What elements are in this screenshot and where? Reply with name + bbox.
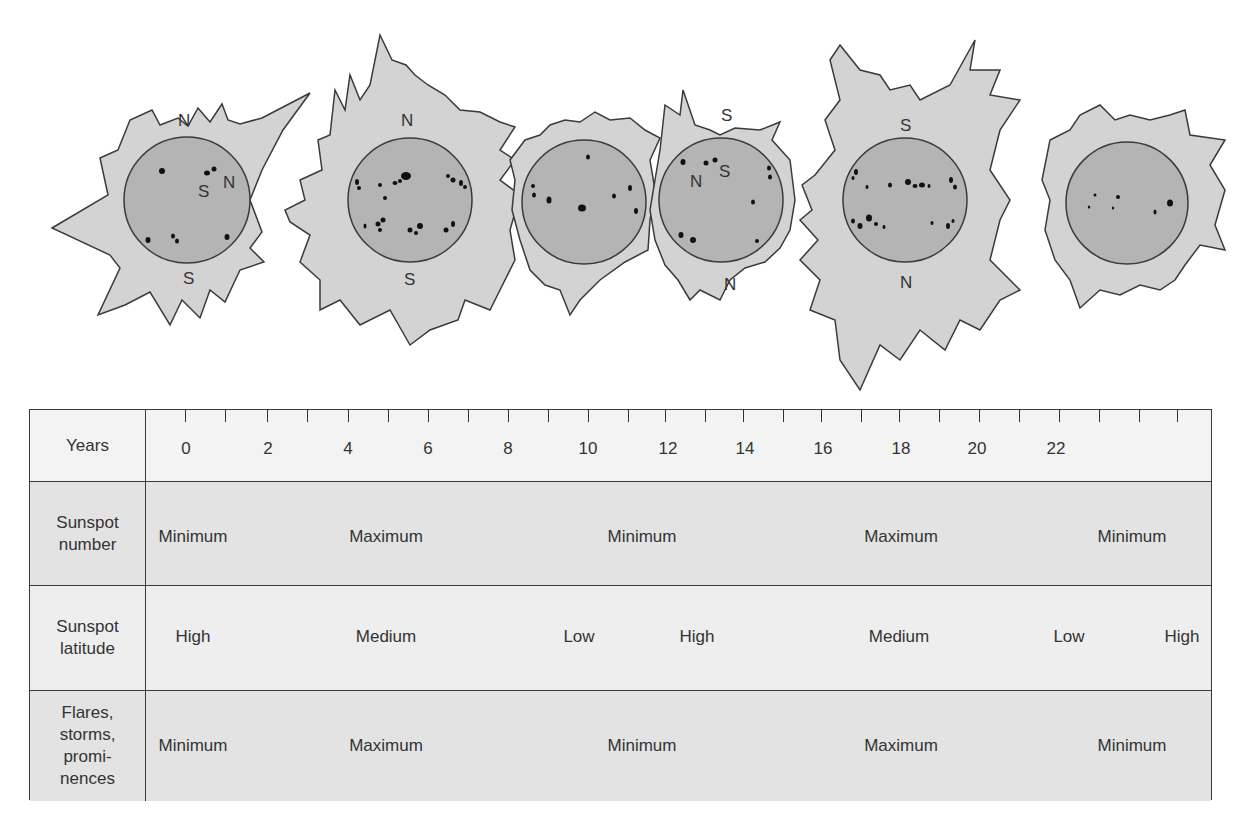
sun-4: S N S N (650, 90, 795, 300)
tick (939, 410, 940, 422)
value-cell: Minimum (608, 736, 677, 756)
tick (899, 410, 900, 422)
year-label: 10 (579, 439, 598, 459)
year-label: 0 (181, 439, 190, 459)
tick (1139, 410, 1140, 422)
solar-cycle-illustration: N S N S N S (0, 0, 1247, 400)
pole-label: N (724, 275, 736, 294)
label-line: storms, (60, 724, 116, 746)
pole-label: N (223, 173, 235, 192)
pole-label: N (178, 111, 190, 130)
tick (1099, 410, 1100, 422)
row-label-sunspot-number: Sunspot number (30, 482, 146, 585)
disk-1 (124, 137, 250, 263)
tick (743, 410, 744, 422)
tick (588, 410, 589, 422)
value-cell: Minimum (1098, 527, 1167, 547)
tick (628, 410, 629, 422)
value-cell: Minimum (159, 736, 228, 756)
tick (348, 410, 349, 422)
pole-label: S (719, 162, 730, 181)
tick (1019, 410, 1020, 422)
tick (979, 410, 980, 422)
year-label: 6 (423, 439, 432, 459)
value-cell: High (176, 627, 211, 647)
tick (665, 410, 666, 422)
value-cell: High (680, 627, 715, 647)
label-line: number (56, 534, 118, 556)
value-cell: High (1165, 627, 1200, 647)
tick (185, 410, 186, 422)
year-label: 16 (814, 439, 833, 459)
disk-2 (348, 138, 472, 262)
tick (225, 410, 226, 422)
pole-label: S (183, 269, 194, 288)
value-cell: Medium (356, 627, 416, 647)
value-cell: Low (1053, 627, 1084, 647)
value-cell: Minimum (159, 527, 228, 547)
sun-6 (1042, 105, 1225, 308)
label-line: Flares, (60, 702, 116, 724)
tick (307, 410, 308, 422)
tick (388, 410, 389, 422)
tick (508, 410, 509, 422)
year-label: 4 (343, 439, 352, 459)
disk-5 (843, 138, 967, 262)
sun-1: N S N S (52, 93, 310, 325)
label-line: promi- (60, 746, 116, 768)
sun-2: N S (285, 35, 520, 345)
value-cell: Low (563, 627, 594, 647)
label-line: latitude (56, 638, 118, 660)
tick (783, 410, 784, 422)
disk-4 (659, 138, 783, 262)
tick (468, 410, 469, 422)
year-label: 8 (503, 439, 512, 459)
pole-label: S (198, 182, 209, 201)
year-label: 2 (263, 439, 272, 459)
sun-5: S N (800, 40, 1020, 390)
sunspot-number-row: Sunspot number Minimum Maximum Minimum M… (30, 482, 1211, 586)
row-label-flares-storms-prominences: Flares, storms, promi- nences (30, 691, 146, 801)
value-cell: Maximum (864, 736, 938, 756)
years-label: Years (30, 410, 146, 481)
value-cell: Maximum (349, 527, 423, 547)
value-cell: Minimum (1098, 736, 1167, 756)
label-line: Sunspot (56, 616, 118, 638)
tick (1177, 410, 1178, 422)
year-axis: 0 2 4 6 8 10 12 14 16 18 20 22 (145, 410, 1211, 481)
row-label-sunspot-latitude: Sunspot latitude (30, 586, 146, 690)
pole-label: N (401, 111, 413, 130)
tick (861, 410, 862, 422)
label-line: Sunspot (56, 512, 118, 534)
years-row: Years (30, 410, 1211, 482)
sun-3 (510, 112, 660, 315)
pole-label: S (404, 270, 415, 289)
year-label: 18 (892, 439, 911, 459)
value-cell: Medium (869, 627, 929, 647)
tick (428, 410, 429, 422)
year-label: 22 (1047, 439, 1066, 459)
value-cell: Minimum (608, 527, 677, 547)
pole-label: S (721, 106, 732, 125)
flares-storms-prominences-row: Flares, storms, promi- nences Minimum Ma… (30, 691, 1211, 801)
tick (705, 410, 706, 422)
year-label: 14 (736, 439, 755, 459)
year-label: 12 (659, 439, 678, 459)
sunspot-latitude-row: Sunspot latitude High Medium Low High Me… (30, 586, 1211, 691)
label-line: nences (60, 768, 116, 790)
value-cell: Maximum (349, 736, 423, 756)
pole-label: N (900, 273, 912, 292)
tick (267, 410, 268, 422)
solar-cycle-table: Years (29, 409, 1212, 800)
tick (821, 410, 822, 422)
disk-3 (522, 140, 646, 264)
pole-label: S (900, 116, 911, 135)
tick (1059, 410, 1060, 422)
year-label: 20 (968, 439, 987, 459)
pole-label: N (690, 172, 702, 191)
value-cell: Maximum (864, 527, 938, 547)
tick (548, 410, 549, 422)
